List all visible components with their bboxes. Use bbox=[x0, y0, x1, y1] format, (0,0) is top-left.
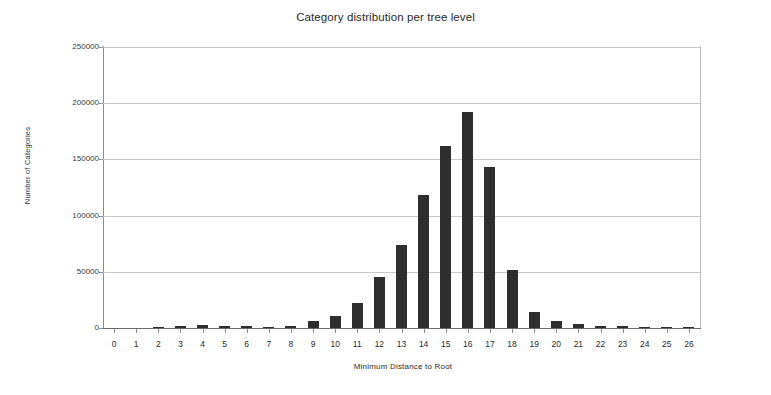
x-tick-mark bbox=[446, 329, 447, 333]
x-tick-mark bbox=[313, 329, 314, 333]
x-tick-mark bbox=[623, 329, 624, 333]
y-axis-label-text: Number of Categories bbox=[24, 126, 33, 203]
x-tick-label: 16 bbox=[456, 339, 480, 349]
x-tick-mark bbox=[667, 329, 668, 333]
bar bbox=[330, 316, 341, 328]
bar bbox=[551, 321, 562, 328]
x-tick-mark bbox=[247, 329, 248, 333]
x-tick-label: 3 bbox=[168, 339, 192, 349]
x-tick-label: 13 bbox=[390, 339, 414, 349]
bar bbox=[484, 167, 495, 328]
x-tick-mark bbox=[534, 329, 535, 333]
y-tick-label: 150000 bbox=[47, 154, 99, 163]
chart-title: Category distribution per tree level bbox=[0, 11, 771, 23]
x-tick-label: 4 bbox=[191, 339, 215, 349]
x-tick-mark bbox=[645, 329, 646, 333]
x-tick-mark bbox=[225, 329, 226, 333]
x-tick-label: 1 bbox=[124, 339, 148, 349]
y-tick-mark bbox=[99, 159, 103, 160]
bar bbox=[374, 277, 385, 328]
x-tick-label: 0 bbox=[102, 339, 126, 349]
x-tick-label: 19 bbox=[522, 339, 546, 349]
bar bbox=[352, 303, 363, 328]
bar bbox=[440, 146, 451, 328]
x-tick-label: 26 bbox=[677, 339, 701, 349]
x-tick-label: 12 bbox=[367, 339, 391, 349]
x-tick-label: 5 bbox=[213, 339, 237, 349]
bar bbox=[308, 321, 319, 328]
x-tick-label: 22 bbox=[589, 339, 613, 349]
x-tick-mark bbox=[601, 329, 602, 333]
x-tick-label: 7 bbox=[257, 339, 281, 349]
y-tick-label: 250000 bbox=[47, 42, 99, 51]
bar bbox=[507, 270, 518, 328]
bar bbox=[595, 326, 606, 328]
x-tick-label: 9 bbox=[301, 339, 325, 349]
x-tick-label: 25 bbox=[655, 339, 679, 349]
x-tick-label: 6 bbox=[235, 339, 259, 349]
y-axis-label: Number of Categories bbox=[20, 0, 36, 330]
bar bbox=[661, 327, 672, 329]
x-tick-mark bbox=[556, 329, 557, 333]
x-tick-label: 24 bbox=[633, 339, 657, 349]
bar bbox=[219, 326, 230, 328]
y-tick-mark bbox=[99, 328, 103, 329]
bar bbox=[153, 327, 164, 329]
bar bbox=[617, 326, 628, 328]
y-tick-mark bbox=[99, 272, 103, 273]
x-tick-mark bbox=[180, 329, 181, 333]
x-tick-mark bbox=[578, 329, 579, 333]
x-tick-mark bbox=[203, 329, 204, 333]
x-tick-mark bbox=[689, 329, 690, 333]
x-tick-label: 14 bbox=[412, 339, 436, 349]
x-tick-label: 20 bbox=[544, 339, 568, 349]
x-tick-label: 18 bbox=[500, 339, 524, 349]
bar bbox=[263, 327, 274, 329]
y-tick-label: 100000 bbox=[47, 211, 99, 220]
x-tick-label: 8 bbox=[279, 339, 303, 349]
x-tick-mark bbox=[357, 329, 358, 333]
x-tick-mark bbox=[402, 329, 403, 333]
x-tick-mark bbox=[468, 329, 469, 333]
x-tick-mark bbox=[424, 329, 425, 333]
bar bbox=[529, 312, 540, 328]
x-tick-label: 21 bbox=[566, 339, 590, 349]
x-tick-mark bbox=[269, 329, 270, 333]
x-tick-mark bbox=[512, 329, 513, 333]
x-axis-label: Minimum Distance to Root bbox=[103, 362, 703, 371]
bar bbox=[197, 325, 208, 328]
y-tick-label: 200000 bbox=[47, 98, 99, 107]
bar bbox=[418, 195, 429, 328]
plot-right-border bbox=[700, 46, 701, 329]
x-tick-label: 17 bbox=[478, 339, 502, 349]
y-tick-label: 0 bbox=[47, 323, 99, 332]
chart-container: Category distribution per tree level Num… bbox=[0, 0, 771, 395]
x-tick-label: 23 bbox=[611, 339, 635, 349]
x-tick-label: 11 bbox=[345, 339, 369, 349]
bar bbox=[639, 327, 650, 329]
x-tick-mark bbox=[490, 329, 491, 333]
bar bbox=[285, 326, 296, 328]
x-tick-label: 10 bbox=[323, 339, 347, 349]
x-tick-mark bbox=[136, 329, 137, 333]
bar bbox=[573, 324, 584, 328]
y-tick-mark bbox=[99, 216, 103, 217]
bar bbox=[175, 326, 186, 328]
x-tick-label: 15 bbox=[434, 339, 458, 349]
x-tick-label: 2 bbox=[146, 339, 170, 349]
y-axis-ticks: 050000100000150000200000250000 bbox=[44, 47, 99, 328]
y-tick-label: 50000 bbox=[47, 267, 99, 276]
x-tick-mark bbox=[114, 329, 115, 333]
x-tick-mark bbox=[379, 329, 380, 333]
bar bbox=[462, 112, 473, 328]
x-tick-mark bbox=[158, 329, 159, 333]
y-tick-mark bbox=[99, 47, 103, 48]
x-tick-mark bbox=[291, 329, 292, 333]
y-tick-mark bbox=[99, 103, 103, 104]
x-tick-mark bbox=[335, 329, 336, 333]
bar bbox=[683, 327, 694, 329]
bar bbox=[241, 326, 252, 328]
bar bbox=[396, 245, 407, 328]
bar-series bbox=[103, 47, 700, 328]
